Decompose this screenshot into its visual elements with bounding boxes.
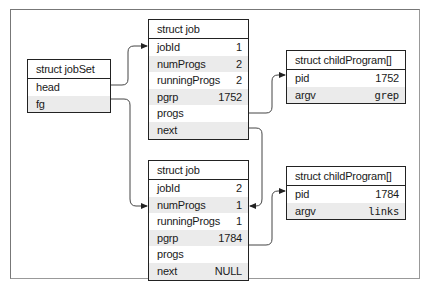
field-name: argv	[295, 87, 316, 104]
field-row-pid: pid 1784	[287, 186, 405, 203]
field-row-fg: fg	[28, 96, 110, 113]
field-row-next: next	[149, 122, 248, 139]
field-name: pid	[295, 186, 309, 203]
field-name: head	[36, 79, 60, 96]
field-name: progs	[157, 105, 184, 122]
field-row-pgrp: pgrp 1752	[149, 89, 248, 106]
field-row-numprogs: numProgs 1	[149, 197, 248, 214]
struct-job-box-1: struct job jobId 1 numProgs 2 runningPro…	[148, 19, 249, 140]
field-name: runningProgs	[157, 72, 220, 89]
arrow-head-to-job1	[110, 46, 147, 85]
field-row-argv: argv links	[287, 203, 405, 220]
struct-job-title: struct job	[149, 20, 248, 39]
struct-childprogram-title: struct childProgram[]	[287, 51, 405, 70]
field-name: jobId	[157, 39, 180, 56]
field-value: 1	[236, 213, 242, 230]
field-value: NULL	[215, 263, 242, 280]
field-value: 1752	[375, 70, 399, 87]
arrow-job2-progs-to-child2	[248, 191, 285, 245]
struct-childprogram-box-1: struct childProgram[] pid 1752 argv grep	[286, 50, 406, 104]
field-row-jobid: jobId 2	[149, 180, 248, 197]
field-value: links	[368, 203, 399, 220]
field-row-argv: argv grep	[287, 87, 405, 104]
field-value: grep	[375, 87, 400, 104]
field-name: pgrp	[157, 230, 178, 247]
field-value: 1784	[218, 230, 242, 247]
field-value: 1	[236, 197, 242, 214]
field-row-numprogs: numProgs 2	[149, 56, 248, 73]
struct-jobset-box: struct jobSet head fg	[27, 59, 111, 113]
field-row-progs: progs	[149, 246, 248, 263]
field-row-head: head	[28, 79, 110, 96]
field-name: next	[157, 122, 177, 139]
struct-jobset-title: struct jobSet	[28, 60, 110, 79]
field-name: fg	[36, 96, 45, 113]
arrow-job1-next-to-job2	[248, 128, 262, 206]
field-name: pid	[295, 70, 309, 87]
field-value: 2	[236, 72, 242, 89]
field-row-pgrp: pgrp 1784	[149, 230, 248, 247]
field-name: numProgs	[157, 56, 206, 73]
field-name: numProgs	[157, 197, 206, 214]
field-value: 2	[236, 180, 242, 197]
field-row-pid: pid 1752	[287, 70, 405, 87]
struct-job-title: struct job	[149, 161, 248, 180]
arrow-fg-to-job2	[110, 99, 147, 206]
field-name: progs	[157, 246, 184, 263]
struct-childprogram-box-2: struct childProgram[] pid 1784 argv link…	[286, 166, 406, 220]
field-value: 1784	[375, 186, 399, 203]
field-row-jobid: jobId 1	[149, 39, 248, 56]
struct-job-box-2: struct job jobId 2 numProgs 1 runningPro…	[148, 160, 249, 281]
field-name: jobId	[157, 180, 180, 197]
field-value: 1752	[218, 89, 242, 106]
field-row-runningprogs: runningProgs 1	[149, 213, 248, 230]
field-name: next	[157, 263, 177, 280]
field-name: argv	[295, 203, 316, 220]
field-name: pgrp	[157, 89, 178, 106]
field-value: 2	[236, 56, 242, 73]
arrow-job1-progs-to-child1	[248, 75, 285, 113]
field-row-progs: progs	[149, 105, 248, 122]
field-name: runningProgs	[157, 213, 220, 230]
field-value: 1	[236, 39, 242, 56]
struct-childprogram-title: struct childProgram[]	[287, 167, 405, 186]
field-row-next: next NULL	[149, 263, 248, 280]
field-row-runningprogs: runningProgs 2	[149, 72, 248, 89]
